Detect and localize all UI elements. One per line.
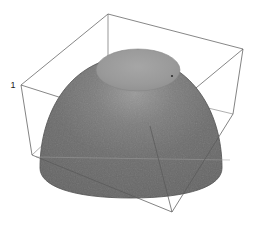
surface-top-cap bbox=[96, 49, 180, 91]
surface-plot-figure: 1 bbox=[0, 0, 256, 227]
plot-canvas: 1 bbox=[0, 0, 256, 227]
surface-mesh bbox=[30, 49, 230, 205]
surface-peak-marker bbox=[171, 75, 173, 77]
box-edge-left-vertical-z-axis[interactable] bbox=[21, 85, 32, 155]
box-edge-top-back-right bbox=[108, 14, 243, 49]
z-axis-tick-label-1: 1 bbox=[10, 80, 15, 90]
box-edge-right-vertical bbox=[233, 49, 243, 114]
